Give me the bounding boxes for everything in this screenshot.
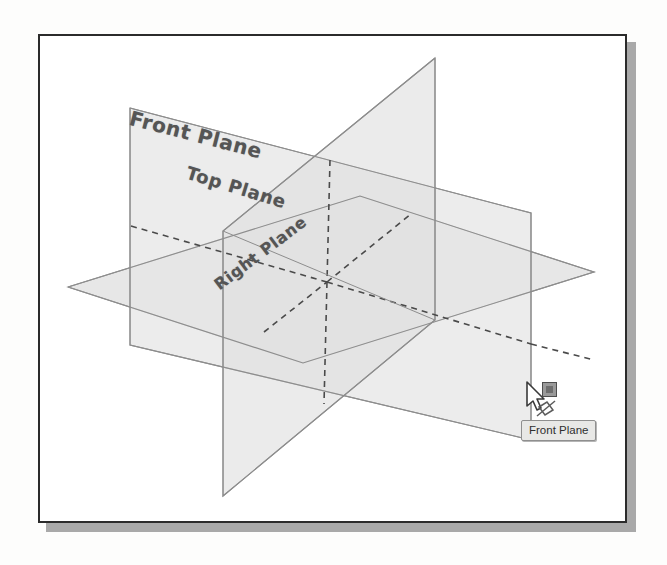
selection-badge-icon	[542, 382, 557, 397]
3d-viewport[interactable]	[0, 0, 667, 565]
hover-tooltip: Front Plane	[521, 420, 596, 441]
plane-icon	[536, 400, 556, 418]
right-plane-surface[interactable]	[223, 58, 435, 496]
